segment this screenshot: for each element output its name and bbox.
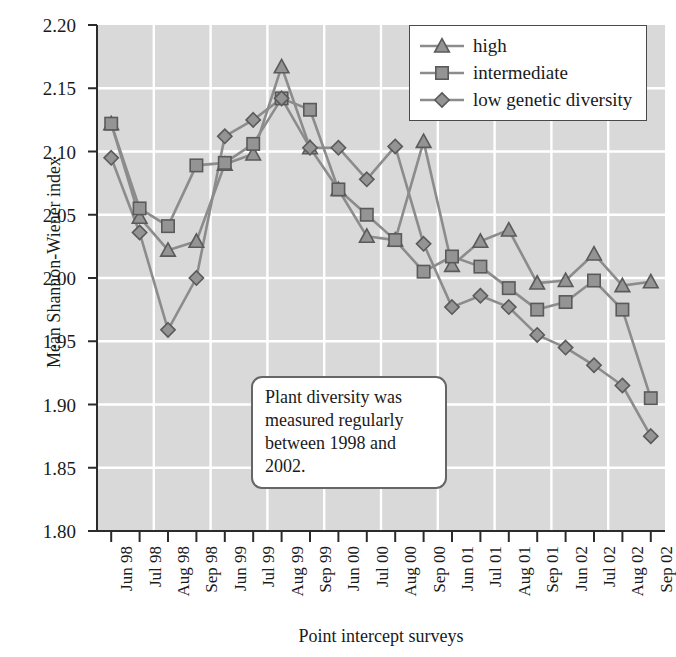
legend-item-low-genetic-diversity: low genetic diversity — [420, 86, 632, 113]
x-tick-label: Jul 02 — [601, 546, 618, 626]
annotation-callout: Plant diversity was measured regularly b… — [251, 376, 447, 489]
x-tick-label: Jul 98 — [147, 546, 164, 626]
x-tick-label: Sep 02 — [658, 546, 675, 626]
x-tick-label: Aug 02 — [629, 546, 646, 626]
x-tick-label: Jul 00 — [374, 546, 391, 626]
legend: highintermediatelow genetic diversity — [409, 25, 647, 121]
x-tick-label: Jul 01 — [487, 546, 504, 626]
x-tick-label: Jul 99 — [260, 546, 277, 626]
x-tick-label: Aug 99 — [289, 546, 306, 626]
x-tick-label: Aug 01 — [516, 546, 533, 626]
legend-item-intermediate: intermediate — [420, 59, 632, 86]
x-tick-label: Jun 99 — [232, 546, 249, 626]
x-tick-label: Sep 01 — [544, 546, 561, 626]
x-tick-label: Aug 00 — [402, 546, 419, 626]
x-tick-label: Sep 00 — [431, 546, 448, 626]
x-tick-label: Sep 99 — [317, 546, 334, 626]
legend-label: intermediate — [473, 63, 568, 82]
legend-label: high — [473, 36, 507, 55]
x-axis-title: Point intercept surveys — [97, 626, 665, 647]
legend-label: low genetic diversity — [473, 90, 632, 109]
x-tick-label: Sep 98 — [203, 546, 220, 626]
legend-item-high: high — [420, 32, 632, 59]
x-tick-label: Jun 98 — [118, 546, 135, 626]
square-marker-icon — [420, 63, 464, 83]
x-tick-label: Jun 01 — [459, 546, 476, 626]
y-axis-title: Mean Shannon-Wiener index — [44, 113, 65, 413]
diamond-marker-icon — [420, 90, 464, 110]
triangle-marker-icon — [420, 36, 464, 56]
x-tick-label: Aug 98 — [175, 546, 192, 626]
x-tick-label: Jun 02 — [573, 546, 590, 626]
x-tick-label: Jun 00 — [345, 546, 362, 626]
